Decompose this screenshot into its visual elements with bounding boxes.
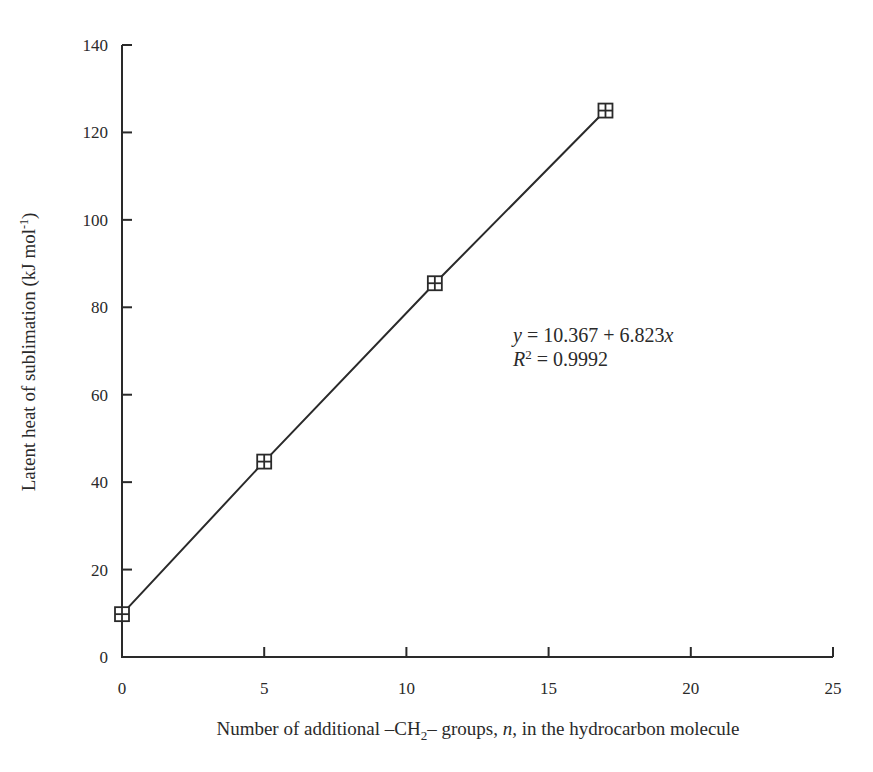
x-tick-labels: 0510152025 <box>118 679 842 698</box>
y-tick-label: 0 <box>100 648 109 667</box>
y-tick-label: 120 <box>83 123 109 142</box>
axis-lines <box>122 45 833 657</box>
equation-annotation: y = 10.367 + 6.823x <box>511 324 673 347</box>
y-tick-label: 140 <box>83 36 109 55</box>
y-tick-label: 60 <box>91 386 108 405</box>
y-axis-title: Latent heat of sublimation (kJ mol-1) <box>17 213 40 492</box>
data-point-marker <box>428 276 442 290</box>
r-squared-annotation: R2 = 0.9992 <box>512 347 608 370</box>
x-tick-label: 20 <box>682 679 699 698</box>
x-tick-label: 25 <box>825 679 842 698</box>
x-tick-label: 5 <box>260 679 269 698</box>
x-tick-label: 0 <box>118 679 127 698</box>
chart: 020406080100120140 0510152025 y = 10.367… <box>0 0 873 772</box>
y-tick-label: 40 <box>91 473 108 492</box>
x-tick-label: 10 <box>398 679 415 698</box>
x-axis-title: Number of additional –CH2– groups, n, in… <box>216 718 739 743</box>
y-tick-label: 100 <box>83 211 109 230</box>
x-tick-label: 15 <box>540 679 557 698</box>
axes <box>122 45 833 657</box>
y-tick-labels: 020406080100120140 <box>83 36 109 667</box>
y-tick-label: 20 <box>91 561 108 580</box>
data-point-marker <box>257 455 271 469</box>
data-point-marker <box>115 607 129 621</box>
data-point-marker <box>598 104 612 118</box>
y-tick-label: 80 <box>91 298 108 317</box>
